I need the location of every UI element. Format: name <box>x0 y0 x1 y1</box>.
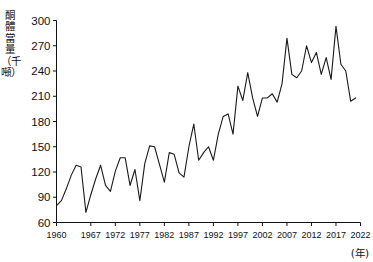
axis-lines <box>57 21 361 223</box>
x-tick-label: 1977 <box>130 230 150 240</box>
x-axis-ticks: 1960196719721977198219871992199720022007… <box>46 223 370 240</box>
x-tick-label: 1982 <box>154 230 174 240</box>
x-tick-label: 1987 <box>179 230 199 240</box>
y-axis-title: 酮體當量（千噸） <box>1 10 18 78</box>
x-tick-label: 1992 <box>203 230 223 240</box>
y-tick-label: 150 <box>31 141 50 153</box>
x-tick-label: 2017 <box>326 230 346 240</box>
chart-container: 酮體當量（千噸） 6090120150180210240270300 19601… <box>0 0 373 262</box>
x-tick-label: 1972 <box>105 230 125 240</box>
x-axis-title: (年) <box>351 245 369 260</box>
line-chart-plot: 6090120150180210240270300 19601967197219… <box>0 0 373 262</box>
y-axis-ticks: 6090120150180210240270300 <box>31 15 56 229</box>
data-series-line <box>57 26 356 212</box>
y-tick-label: 270 <box>31 40 50 52</box>
y-tick-label: 240 <box>31 65 50 77</box>
y-tick-label: 60 <box>38 217 51 229</box>
x-tick-label: 2012 <box>301 230 321 240</box>
x-tick-label: 1960 <box>46 230 66 240</box>
y-tick-label: 180 <box>31 116 50 128</box>
x-tick-label: 1967 <box>81 230 101 240</box>
y-tick-label: 210 <box>31 90 50 102</box>
y-tick-label: 90 <box>38 191 51 203</box>
y-tick-label: 300 <box>31 15 50 27</box>
x-tick-label: 2022 <box>350 230 370 240</box>
x-tick-label: 1997 <box>228 230 248 240</box>
x-tick-label: 2007 <box>277 230 297 240</box>
x-tick-label: 2002 <box>252 230 272 240</box>
y-tick-label: 120 <box>31 166 50 178</box>
